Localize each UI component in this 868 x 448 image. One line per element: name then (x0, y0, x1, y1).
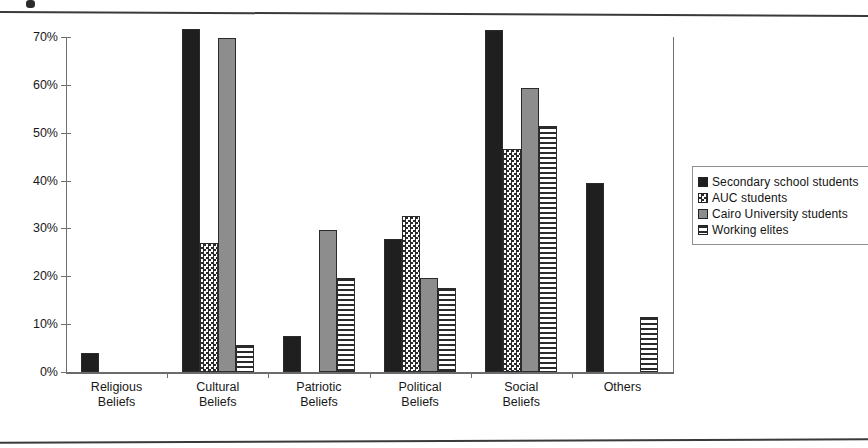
page-rule-bottom (0, 438, 868, 443)
x-tick-mark (370, 372, 371, 378)
bar (640, 317, 658, 372)
x-category-label: Others (572, 380, 673, 395)
legend-item[interactable]: Cairo University students (698, 206, 864, 221)
bar-chart: 0%10%20%30%40%50%60%70% Religious Belief… (0, 18, 868, 418)
bar (182, 29, 200, 372)
bar (521, 88, 539, 372)
page-corner-mark (26, 0, 35, 8)
x-tick-mark (268, 372, 269, 378)
x-category-label: Cultural Beliefs (167, 380, 268, 410)
legend-swatch-icon (698, 177, 708, 187)
bar (586, 183, 604, 372)
bar (337, 278, 355, 372)
bar (402, 216, 420, 372)
legend-swatch-icon (698, 193, 708, 203)
bar (503, 149, 521, 372)
legend-swatch-icon (698, 209, 708, 219)
x-category-label: Religious Beliefs (66, 380, 167, 410)
legend-swatch-icon (698, 225, 708, 235)
bar (283, 336, 301, 372)
chart-legend: Secondary school students AUC students C… (692, 166, 868, 245)
bar (420, 278, 438, 372)
bar (485, 30, 503, 372)
page-rule-top (0, 11, 868, 17)
legend-item[interactable]: Working elites (698, 222, 864, 237)
x-category-label: Social Beliefs (471, 380, 572, 410)
x-tick-mark (167, 372, 168, 378)
legend-item[interactable]: Secondary school students (698, 174, 864, 189)
bar (81, 353, 99, 372)
legend-item-label: Working elites (712, 223, 789, 237)
bar (200, 243, 218, 372)
x-tick-mark (471, 372, 472, 378)
x-category-label: Political Beliefs (370, 380, 471, 410)
legend-item-label: Secondary school students (712, 175, 859, 189)
legend-item-label: AUC students (712, 191, 787, 205)
x-tick-mark (572, 372, 573, 378)
legend-item-label: Cairo University students (712, 207, 848, 221)
bar (218, 38, 236, 372)
bar (319, 230, 337, 372)
legend-item[interactable]: AUC students (698, 190, 864, 205)
bar (236, 345, 254, 372)
x-axis-category-labels: Religious BeliefsCultural BeliefsPatriot… (66, 380, 673, 424)
x-category-label: Patriotic Beliefs (268, 380, 369, 410)
bar (539, 126, 557, 372)
bar (438, 288, 456, 372)
bar (384, 239, 402, 372)
